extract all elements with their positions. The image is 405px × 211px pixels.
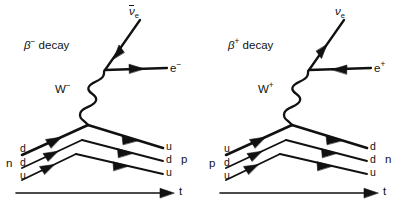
time-axis-arrowhead: [364, 188, 378, 197]
w-boson-label: W+: [258, 82, 274, 95]
diagram-beta-plus-decay: β+ decay νe e+ W+ p u d u d d u n t: [202, 0, 405, 211]
initial-hadron-label: n: [6, 158, 12, 170]
beta-minus-diagram-lines: [0, 0, 203, 211]
electron-label: e−: [170, 61, 181, 74]
time-axis-arrowhead: [160, 188, 174, 197]
w-boson-symbol: W: [258, 83, 269, 95]
time-axis-label: t: [383, 186, 386, 198]
quark-arrowhead-in-2: [43, 151, 58, 161]
decay-title-beta-minus: β− decay: [24, 38, 69, 51]
positron-label: e+: [374, 61, 385, 74]
antineutrino-subscript: e: [135, 11, 139, 20]
quark-arrowhead-in-3: [244, 165, 259, 175]
quark-arrowhead-out-2: [322, 149, 338, 158]
final-quark-label-3: u: [166, 167, 172, 178]
title-beta-symbol: β: [228, 39, 235, 51]
final-quark-label-2: d: [166, 154, 172, 165]
initial-quark-label-3: u: [224, 170, 230, 181]
initial-quark-label-1: u: [224, 143, 230, 154]
w-boson-charge: +: [269, 81, 274, 90]
initial-quark-label-2: d: [20, 157, 26, 168]
final-hadron-label: n: [385, 154, 391, 166]
electron-arrowhead: [129, 64, 144, 73]
electron-charge: −: [176, 60, 181, 69]
feynman-diagram-figure: β− decay νe e− W− n d d u u d u p: [0, 0, 405, 211]
quark-arrowhead-out-3: [113, 162, 129, 171]
quark-arrowhead-out-2: [118, 149, 134, 158]
w-boson-label: W−: [55, 82, 71, 95]
quark-arrowhead-in-1: [46, 137, 62, 148]
w-boson-charge: −: [66, 81, 71, 90]
antineutrino-overbar: ν: [129, 6, 135, 18]
initial-quark-label-1: d: [20, 143, 26, 154]
positron-arrowhead: [332, 65, 347, 74]
title-word: decay: [39, 39, 70, 51]
quark-arrowhead-in-3: [40, 165, 55, 175]
final-hadron-symbol: p: [181, 153, 187, 165]
time-axis-label: t: [179, 186, 182, 198]
neutrino-label: νe: [335, 6, 345, 20]
antineutrino-line: [105, 20, 140, 70]
initial-quark-label-3: u: [20, 170, 26, 181]
quark-arrowhead-in-1: [250, 137, 266, 148]
initial-hadron-symbol: n: [6, 157, 12, 169]
final-hadron-symbol: n: [385, 153, 391, 165]
w-boson-propagator: [284, 70, 309, 125]
antineutrino-label: νe: [129, 6, 139, 20]
beta-plus-diagram-lines: [202, 0, 405, 211]
diagram-beta-minus-decay: β− decay νe e− W− n d d u u d u p: [0, 0, 203, 211]
decay-title-beta-plus: β+ decay: [228, 38, 273, 51]
final-quark-label-1: d: [370, 141, 376, 152]
antineutrino-symbol: ν: [129, 5, 135, 17]
initial-quark-label-2: d: [224, 157, 230, 168]
final-quark-label-2: d: [370, 154, 376, 165]
quark-arrowhead-out-3: [317, 162, 333, 171]
final-quark-label-1: u: [166, 141, 172, 152]
w-boson-symbol: W: [55, 83, 66, 95]
neutrino-subscript: e: [341, 11, 345, 20]
final-hadron-label: p: [181, 154, 187, 166]
w-boson-propagator: [80, 70, 105, 125]
antineutrino-arrowhead: [114, 45, 125, 59]
initial-hadron-symbol: p: [209, 157, 215, 169]
initial-hadron-label: p: [209, 158, 215, 170]
final-quark-label-3: u: [370, 167, 376, 178]
title-word: decay: [243, 39, 274, 51]
title-charge: +: [235, 37, 240, 46]
quark-arrowhead-in-2: [247, 151, 262, 161]
title-beta-symbol: β: [24, 39, 31, 51]
title-charge: −: [31, 37, 36, 46]
positron-charge: +: [380, 60, 385, 69]
